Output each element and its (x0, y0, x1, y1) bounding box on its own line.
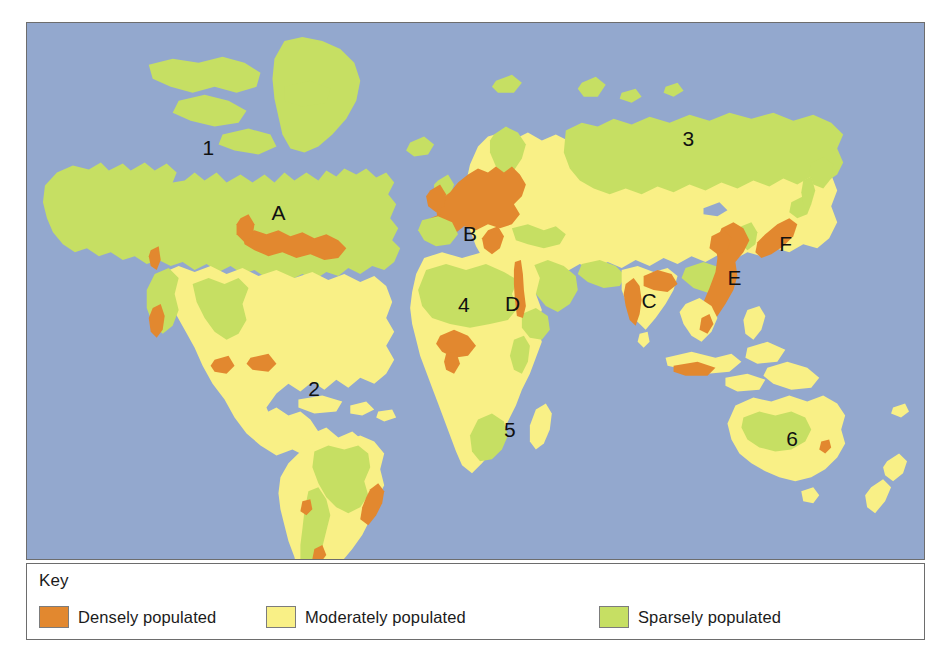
key-label-sparsely-populated: Sparsely populated (638, 608, 781, 627)
map-key-panel: Key Densely populated Moderately populat… (26, 563, 925, 640)
key-item-densely-populated: Densely populated (39, 603, 216, 631)
key-label-densely-populated: Densely populated (78, 608, 216, 627)
world-map-panel: 1 A 2 B 4 D 5 3 C E F 6 (26, 22, 925, 560)
map-label-2: 2 (308, 377, 320, 400)
key-item-moderately-populated: Moderately populated (266, 603, 466, 631)
map-label-1: 1 (203, 137, 215, 160)
map-label-C: C (642, 289, 657, 312)
map-label-B: B (463, 222, 477, 245)
map-label-3: 3 (683, 127, 695, 150)
key-items-row: Densely populated Moderately populated S… (27, 603, 924, 631)
map-label-F: F (779, 232, 792, 255)
key-swatch-densely-populated (39, 606, 69, 628)
map-label-5: 5 (504, 418, 516, 441)
key-title: Key (39, 571, 69, 591)
key-swatch-sparsely-populated (599, 606, 629, 628)
key-label-moderately-populated: Moderately populated (305, 608, 466, 627)
siberia-sparse (564, 113, 843, 195)
key-item-sparsely-populated: Sparsely populated (599, 603, 781, 631)
map-label-D: D (505, 292, 520, 315)
population-density-figure: 1 A 2 B 4 D 5 3 C E F 6 Key Densely popu… (0, 0, 950, 659)
key-swatch-moderately-populated (266, 606, 296, 628)
map-label-6: 6 (786, 427, 798, 450)
map-label-E: E (727, 266, 741, 289)
world-map-svg: 1 A 2 B 4 D 5 3 C E F 6 (27, 23, 924, 559)
map-label-A: A (271, 201, 285, 224)
map-label-4: 4 (458, 293, 470, 316)
